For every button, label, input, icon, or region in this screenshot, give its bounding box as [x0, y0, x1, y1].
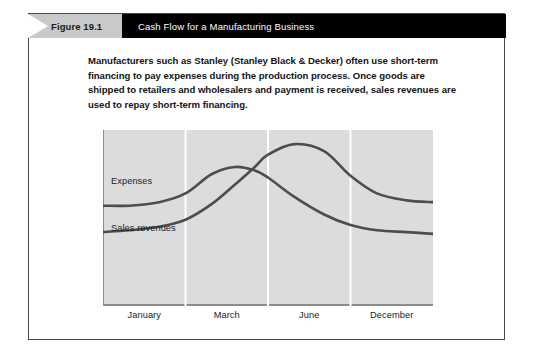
figure-caption-text: Manufacturers such as Stanley (Stanley B… — [88, 54, 460, 112]
x-tick-label-december: December — [370, 310, 413, 320]
chevron-right-icon — [28, 14, 48, 38]
x-tick-label-june: June — [299, 310, 319, 320]
x-tick-label-march: March — [214, 310, 240, 320]
cash-flow-chart: Expenses Sales revenues JanuaryMarchJune… — [103, 130, 433, 306]
chart-x-axis-labels: JanuaryMarchJuneDecember — [103, 310, 433, 326]
figure-number-block: Figure 19.1 — [29, 14, 122, 38]
chart-gridlines — [186, 130, 351, 306]
x-tick-label-january: January — [128, 310, 161, 320]
figure-title-label: Cash Flow for a Manufacturing Business — [138, 21, 314, 32]
series-label-sales-revenues: Sales revenues — [111, 223, 176, 233]
series-label-expenses: Expenses — [111, 176, 152, 186]
figure-number-label: Figure 19.1 — [51, 21, 102, 32]
chart-curves — [103, 130, 433, 306]
figure-header: Figure 19.1 Cash Flow for a Manufacturin… — [29, 14, 506, 38]
figure-box: Figure 19.1 Cash Flow for a Manufacturin… — [28, 13, 505, 340]
figure-title-block: Cash Flow for a Manufacturing Business — [122, 14, 506, 38]
